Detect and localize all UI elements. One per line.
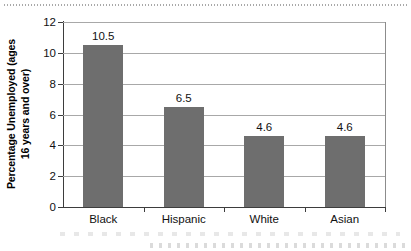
x-category-label: Hispanic bbox=[144, 213, 224, 226]
y-axis-tick bbox=[58, 176, 63, 177]
bar-chart-figure: Percentage Unemployed (ages 16 years and… bbox=[0, 0, 411, 251]
x-axis-tick bbox=[224, 207, 225, 212]
y-axis-tick bbox=[58, 22, 63, 23]
bar-value-label: 10.5 bbox=[73, 30, 133, 42]
bar bbox=[325, 136, 365, 207]
x-axis-tick bbox=[144, 207, 145, 212]
y-axis-tick-label: 2 bbox=[2, 170, 56, 182]
y-axis-tick bbox=[58, 207, 63, 208]
x-category-label: White bbox=[224, 213, 304, 226]
y-axis-tick-label: 10 bbox=[2, 47, 56, 59]
y-axis-tick-label: 8 bbox=[2, 78, 56, 90]
x-category-label: Asian bbox=[305, 213, 385, 226]
y-axis-tick-label: 4 bbox=[2, 139, 56, 151]
plot-area bbox=[63, 22, 386, 207]
y-axis-tick-label: 0 bbox=[2, 201, 56, 213]
y-axis-tick bbox=[58, 84, 63, 85]
y-axis-tick bbox=[58, 145, 63, 146]
y-axis-tick-label: 6 bbox=[2, 109, 56, 121]
gridline bbox=[63, 22, 385, 23]
bar bbox=[83, 45, 123, 207]
bar-value-label: 4.6 bbox=[315, 121, 375, 133]
bar bbox=[164, 107, 204, 207]
y-axis-tick bbox=[58, 53, 63, 54]
scan-artifact-top-dotted-line bbox=[4, 4, 407, 6]
y-axis-tick-label: 12 bbox=[2, 16, 56, 28]
x-axis-tick bbox=[385, 207, 386, 212]
scan-artifact-bottom-row bbox=[60, 232, 400, 236]
x-axis-tick bbox=[305, 207, 306, 212]
x-category-label: Black bbox=[63, 213, 143, 226]
bar-value-label: 4.6 bbox=[234, 121, 294, 133]
bar bbox=[244, 136, 284, 207]
scan-artifact-bottom-text bbox=[150, 243, 405, 248]
y-axis-tick bbox=[58, 115, 63, 116]
bar-value-label: 6.5 bbox=[154, 92, 214, 104]
